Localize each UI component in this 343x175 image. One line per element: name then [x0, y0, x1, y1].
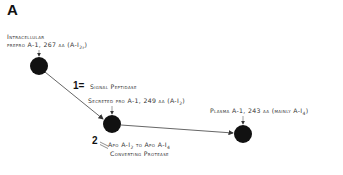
step2-label-line1: Apo A-I2 to Apo A-I4 [108, 141, 170, 149]
pathway-diagram [0, 0, 343, 175]
node-secreted [103, 115, 121, 133]
node-intracellular-label-line1: Intracellular [7, 33, 44, 41]
node-intracellular [30, 57, 48, 75]
node-plasma-label: Plasma A-1, 243 aa (mainly A-I4) [210, 107, 309, 115]
node-secreted-label: Secreted pro A-1, 249 aa (A-I2) [88, 97, 185, 105]
step2-number: 2 [92, 135, 98, 146]
node-intracellular-label-line2: prepro A-1, 267 aa (A-I2p) [7, 41, 87, 49]
step2-label-line2: Converting Protease [110, 150, 169, 158]
step1-label: Signal Peptidase [90, 83, 137, 91]
step2-arrow [121, 125, 233, 133]
node-plasma [234, 125, 252, 143]
step1-number: 1= [73, 80, 84, 91]
